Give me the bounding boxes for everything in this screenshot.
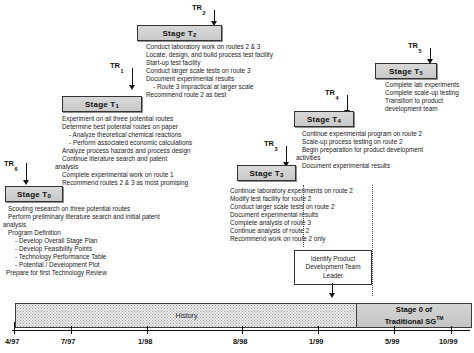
trademark-mark: TM xyxy=(436,315,443,321)
product-development-team-box[interactable]: Identify Product Development Team Leader xyxy=(294,250,372,285)
stage-t0-task-8: Prepare for first Technology Review xyxy=(6,269,160,277)
arrow-tr-3-to-stage-t3 xyxy=(283,146,290,167)
arrow-pd-box-to-timeline xyxy=(329,283,336,298)
pd-line-1: Identify Product xyxy=(311,255,355,263)
stage-t2-task-1: Locate, design, and build process test f… xyxy=(146,51,273,59)
review-marker-tr-4: TR4 xyxy=(325,88,338,99)
tr-4-label: TR xyxy=(325,88,335,97)
pd-line-2: Development Team xyxy=(306,263,361,271)
review-marker-tr-5: TR5 xyxy=(408,41,421,52)
stage-t4-task-2: Begin preparation for product developmen… xyxy=(302,146,423,154)
stage-t1-task-2: - Analyze theoretical chemical reactions xyxy=(62,131,192,139)
stage-0-traditional-sg-bar: Stage 0 of Traditional SGTM xyxy=(356,303,472,328)
tr-5-label: TR xyxy=(408,41,418,50)
stage-t1-task-5: Continue literature search and patent xyxy=(62,155,192,163)
stage-t1-subscript: 1 xyxy=(115,103,119,109)
tick-label-1: 7/97 xyxy=(61,337,75,346)
stage-t3-label: Stage T xyxy=(250,169,280,178)
tick-label-6: 10/99 xyxy=(439,337,458,346)
stage-t5-tasks: Complete lab experiments Complete scale-… xyxy=(385,81,459,113)
stage-t5-task-0: Complete lab experiments xyxy=(385,81,459,89)
tick-label-3: 8/98 xyxy=(233,337,247,346)
tr-5-subscript: 5 xyxy=(419,48,422,54)
guide-line-right xyxy=(372,185,373,296)
stage-t3-task-0: Continue laboratory experiments on route… xyxy=(230,187,353,195)
stage-t0-task-1: Perform preliminary literature search an… xyxy=(8,213,160,221)
guide-line-left xyxy=(303,185,304,247)
tick-mark-2 xyxy=(147,326,148,334)
tr-3-subscript: 3 xyxy=(275,146,278,152)
tick-label-5: 5/99 xyxy=(385,337,399,346)
tr-2-label: TR xyxy=(192,3,202,12)
tick-label-2: 1/98 xyxy=(138,337,152,346)
stage-t0-task-5: - Develop Feasibility Points xyxy=(8,245,160,253)
arrow-tr-2-to-stage-t2 xyxy=(211,10,218,26)
stage-t4-task-4: Document experimental results xyxy=(302,162,423,170)
stage-t2-task-0: Conduct laboratory work on routes 2 & 3 xyxy=(146,43,273,51)
stage-t1-label: Stage T xyxy=(85,100,115,109)
stage-t3-tasks: Continue laboratory experiments on route… xyxy=(230,187,353,243)
stage-t2-label: Stage T xyxy=(163,29,193,38)
stage-t0-subscript: 0 xyxy=(47,193,51,199)
tick-mark-6 xyxy=(451,326,452,334)
stage-t1-task-3: - Perform associated economic calculatio… xyxy=(62,139,192,147)
tick-mark-1 xyxy=(71,326,72,334)
stage-t0-box[interactable]: Stage T0 xyxy=(5,186,63,202)
tick-mark-0 xyxy=(14,322,15,334)
stage-t3-task-2: Conduct larger scale tests on route 2 xyxy=(230,203,353,211)
stage-t2-subscript: 2 xyxy=(193,32,197,38)
stage-t4-label: Stage T xyxy=(307,115,337,124)
stage-t3-task-1: Modify test facility for route 2 xyxy=(230,195,353,203)
sg-line-1: Stage 0 of xyxy=(396,305,432,314)
stage-t2-box[interactable]: Stage T2 xyxy=(137,25,222,41)
stage-t0-task-0: Scouting research on three potential rou… xyxy=(8,205,160,213)
tr-1-subscript: 1 xyxy=(121,68,124,74)
review-marker-tr-2: TR2 xyxy=(192,3,205,14)
stage-t1-task-0: Experiment on all three potential routes xyxy=(62,115,192,123)
stage-t0-tasks: Scouting research on three potential rou… xyxy=(8,205,160,277)
stage-t5-label: Stage T xyxy=(389,67,419,76)
arrow-tr-5-to-stage-t5 xyxy=(427,48,434,64)
tick-mark-4 xyxy=(318,326,319,334)
arrow-tr-6-to-stage-t0 xyxy=(23,163,30,185)
stage-t1-task-1: Determine best potential routes on paper xyxy=(62,123,192,131)
arrow-tr-1-to-stage-t1 xyxy=(129,68,136,90)
stage-t2-task-4: Document experimental results xyxy=(146,75,273,83)
stage-t5-subscript: 5 xyxy=(419,70,423,76)
stage-t4-tasks: Continue experimental program on route 2… xyxy=(302,130,423,170)
stage-t5-box[interactable]: Stage T5 xyxy=(375,63,437,79)
stage-t2-task-5: - Route 3 impractical at larger scale xyxy=(146,83,273,91)
timeline-axis xyxy=(12,330,470,331)
stage-t2-task-2: Start-up test facility xyxy=(146,59,273,67)
stage-t4-task-1: Scale-up process testing on route 2 xyxy=(302,138,423,146)
history-bar: History xyxy=(15,303,358,328)
stage-t3-box[interactable]: Stage T3 xyxy=(237,165,296,181)
history-label: History xyxy=(174,312,200,319)
stage-t2-task-3: Conduct larger scale tests on route 3 xyxy=(146,67,273,75)
review-marker-tr-1: TR1 xyxy=(110,61,123,72)
stage-t1-task-6: analysis xyxy=(55,163,192,171)
stage-t1-box[interactable]: Stage T1 xyxy=(62,96,142,112)
stage-t2-task-6: Recommend route 2 as best xyxy=(146,91,273,99)
stage-t3-task-4: Complete analysis of route 3 xyxy=(230,219,353,227)
tr-2-subscript: 2 xyxy=(203,10,206,16)
stage-t3-subscript: 3 xyxy=(280,172,284,178)
tr-6-subscript: 6 xyxy=(15,166,18,172)
stage-t5-task-2: Transition to product xyxy=(385,97,459,105)
sg-line-2: Traditional SG xyxy=(385,317,436,326)
tr-1-label: TR xyxy=(110,61,120,70)
tr-4-subscript: 4 xyxy=(336,95,339,101)
tr-6-label: TR xyxy=(4,159,14,168)
stage-t4-subscript: 4 xyxy=(337,118,341,124)
tick-label-0: 4/97 xyxy=(5,337,19,346)
stage-t1-task-8: Recommend routes 2 & 3 as most promising xyxy=(62,179,192,187)
tick-mark-5 xyxy=(394,326,395,334)
stage-t0-task-7: - Potential / Development Plot xyxy=(8,261,160,269)
tick-label-4: 1/99 xyxy=(309,337,323,346)
stage-t4-task-0: Continue experimental program on route 2 xyxy=(302,130,423,138)
stage-t4-box[interactable]: Stage T4 xyxy=(294,111,354,127)
stage-t0-task-4: - Develop Overall Stage Plan xyxy=(8,237,160,245)
stage-t1-task-7: Complete experimental work on route 1 xyxy=(62,171,192,179)
stage-t1-task-4: Analyze process hazards and process desi… xyxy=(62,147,192,155)
stage-t2-tasks: Conduct laboratory work on routes 2 & 3 … xyxy=(146,43,273,99)
